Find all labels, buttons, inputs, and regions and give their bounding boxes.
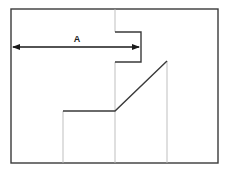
- dimension-label-a: A: [74, 34, 81, 44]
- dimension-diagram: A: [0, 0, 233, 172]
- diagram-frame: [11, 9, 218, 163]
